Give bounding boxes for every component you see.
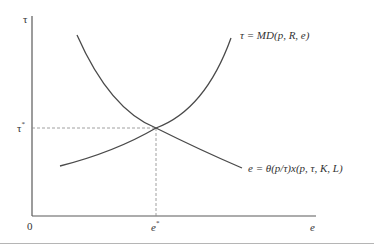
e-star-label: e* [151,222,159,233]
bottom-rule [0,243,374,244]
diagram-canvas [0,0,374,248]
x-axis-label: e [310,222,315,233]
origin-label: 0 [27,221,33,232]
e-curve [60,128,242,168]
e-star-superscript: * [156,219,160,227]
tau-star-label: τ* [17,123,25,134]
tau-star-superscript: * [21,120,25,128]
e-curve-label: e = θ(p/τ)x(p, τ, K, L) [248,163,343,174]
y-axis-label: τ [23,14,27,25]
md-curve [77,35,231,128]
md-curve-label: τ = MD(p, R, e) [240,30,309,41]
